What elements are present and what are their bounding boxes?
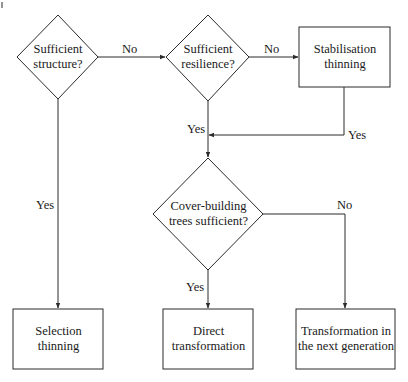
- edge-label-d2-yes: Yes: [187, 122, 205, 137]
- text-line: structure?: [33, 57, 82, 72]
- text-line: Direct: [193, 324, 224, 339]
- text-line: Stabilisation: [314, 42, 377, 57]
- decision-cover-building-text: Cover-building trees sufficient?: [153, 199, 264, 229]
- edge-label-d3-yes: Yes: [186, 280, 204, 295]
- text-line: Sufficient: [183, 42, 232, 57]
- text-line: Sufficient: [33, 42, 82, 57]
- edge-label-d3-no: No: [337, 198, 352, 213]
- process-selection-thinning-text: Selection thinning: [13, 324, 104, 354]
- text-line: Cover-building: [170, 199, 246, 214]
- edge-d3-no: [263, 214, 345, 308]
- text-line: the next generation: [298, 339, 394, 354]
- process-direct-transformation-text: Direct transformation: [163, 324, 254, 354]
- text-line: trees sufficient?: [169, 214, 248, 229]
- text-line: Selection: [35, 324, 82, 339]
- edge-label-d1-yes: Yes: [36, 198, 54, 213]
- decision-sufficient-structure-text: Sufficient structure?: [17, 42, 99, 72]
- text-line: resilience?: [181, 57, 234, 72]
- edge-stab-yes: [209, 87, 344, 135]
- edge-label-d1-no: No: [122, 42, 137, 57]
- process-transformation-next-generation-text: Transformation in the next generation: [296, 324, 396, 354]
- process-stabilisation-thinning-text: Stabilisation thinning: [299, 42, 391, 72]
- edge-label-d2-no: No: [264, 42, 279, 57]
- text-line: transformation: [172, 339, 246, 354]
- decision-sufficient-resilience-text: Sufficient resilience?: [166, 42, 250, 72]
- text-line: thinning: [324, 57, 366, 72]
- text-line: Transformation in: [301, 324, 391, 339]
- text-line: thinning: [38, 339, 80, 354]
- edge-label-stab-yes: Yes: [348, 128, 366, 143]
